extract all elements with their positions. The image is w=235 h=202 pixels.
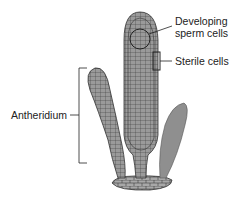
label-antheridium: Antheridium xyxy=(11,109,67,121)
main-antheridium xyxy=(124,12,158,178)
antheridium-bracket xyxy=(70,68,87,163)
label-sterile-cells: Sterile cells xyxy=(175,55,229,67)
paraphysis xyxy=(160,103,188,178)
label-line: sperm cells xyxy=(175,27,228,39)
label-developing-sperm: Developing sperm cells xyxy=(175,15,228,39)
left-antheridium xyxy=(88,68,125,178)
label-line: Developing xyxy=(175,15,228,27)
